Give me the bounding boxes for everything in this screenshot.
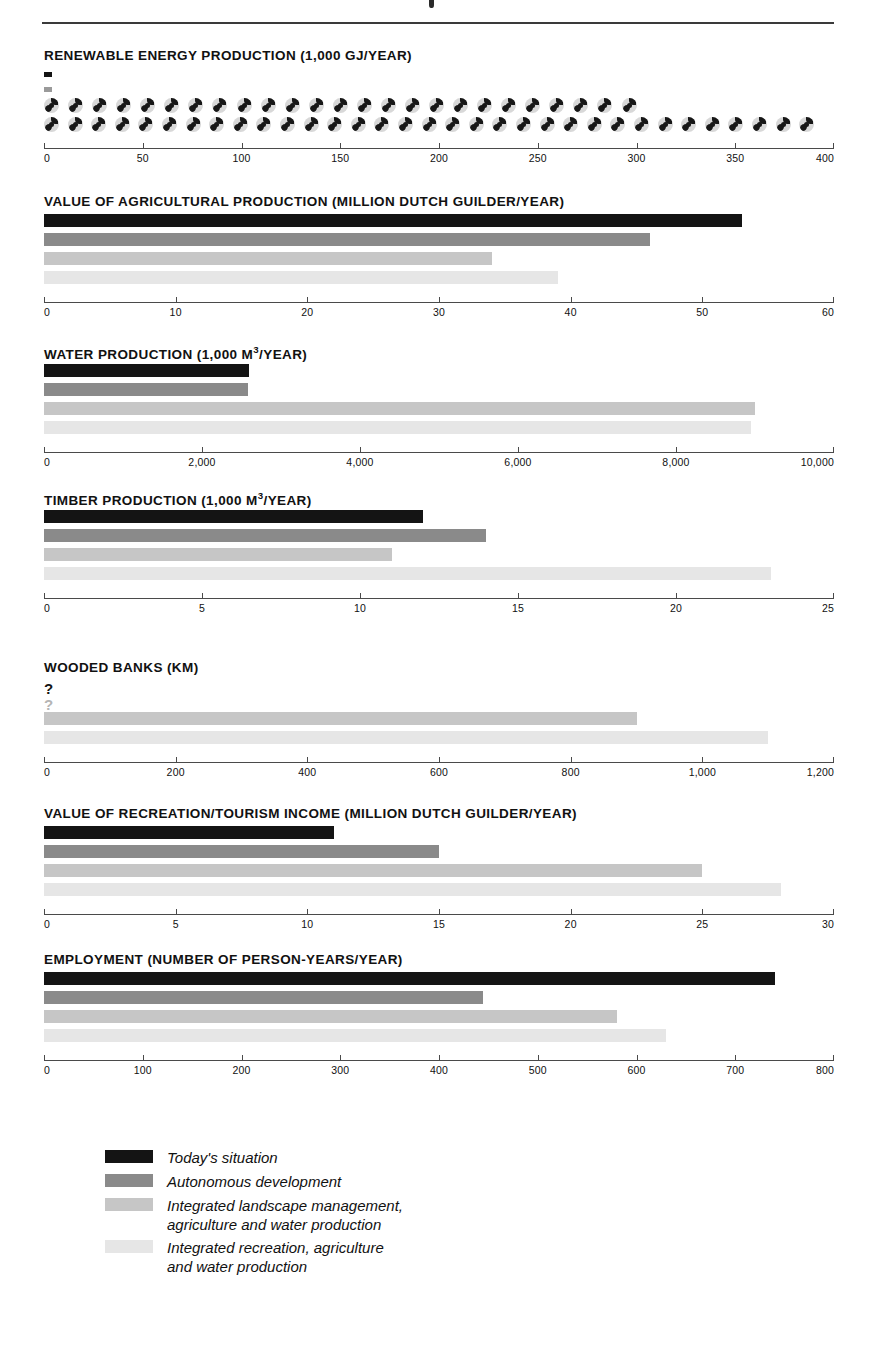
- x-axis-tick: [571, 297, 572, 303]
- legend-swatch: [105, 1198, 153, 1211]
- wind-turbine-icon: [162, 117, 177, 132]
- x-axis-tick: [340, 143, 341, 149]
- chart-title: WOODED BANKS (km): [44, 660, 199, 675]
- wind-turbine-icon: [398, 117, 413, 132]
- wind-turbine-icon: [327, 117, 342, 132]
- wind-turbine-icon: [261, 98, 276, 113]
- chart-title: VALUE OF AGRICULTURAL PRODUCTION (MILLIO…: [44, 194, 564, 209]
- legend-label: Integrated recreation, agriculture and w…: [167, 1238, 403, 1276]
- x-axis-tick-label: 20: [565, 918, 577, 930]
- wind-turbine-icon: [285, 98, 300, 113]
- wind-turbine-icon: [237, 98, 252, 113]
- bar-series-3: [44, 1029, 666, 1042]
- x-axis-tick: [571, 909, 572, 915]
- wind-turbine-icon: [705, 117, 720, 132]
- bar-series-0: [44, 826, 334, 839]
- x-axis-tick-label: 100: [134, 1064, 152, 1076]
- wind-turbine-icon: [563, 117, 578, 132]
- wind-turbine-icon: [429, 98, 444, 113]
- x-axis-tick: [242, 143, 243, 149]
- x-axis-tick: [44, 1055, 45, 1061]
- wind-turbine-icon: [634, 117, 649, 132]
- wind-turbine-icon: [92, 98, 107, 113]
- x-axis-tick: [833, 297, 834, 303]
- x-axis-tick-label: 150: [331, 152, 349, 164]
- x-axis-tick-label: 10,000: [801, 456, 834, 468]
- bar-series-1: [44, 845, 439, 858]
- wind-turbine-icon: [138, 117, 153, 132]
- x-axis-tick: [44, 297, 45, 303]
- x-axis-tick: [538, 1055, 539, 1061]
- wind-turbine-icon: [492, 117, 507, 132]
- bar-series-0: [44, 214, 742, 227]
- wind-turbine-icon: [68, 117, 83, 132]
- x-axis-tick: [833, 909, 834, 915]
- wind-turbine-icon: [622, 98, 637, 113]
- x-axis-tick: [44, 757, 45, 763]
- x-axis-tick: [702, 757, 703, 763]
- x-axis-tick-label: 350: [726, 152, 744, 164]
- x-axis-tick-label: 300: [331, 1064, 349, 1076]
- wind-turbine-icon: [44, 117, 59, 132]
- x-axis-tick-label: 60: [822, 306, 834, 318]
- bar-series-2: [44, 712, 637, 725]
- x-axis-tick-label: 800: [816, 1064, 834, 1076]
- x-axis-tick: [202, 593, 203, 599]
- bar-series-0: [44, 510, 423, 523]
- wind-turbine-icon: [44, 98, 59, 113]
- x-axis-tick-label: 8,000: [662, 456, 689, 468]
- wind-turbine-icon: [658, 117, 673, 132]
- wind-turbine-icon: [540, 117, 555, 132]
- x-axis-tick: [360, 593, 361, 599]
- x-axis-tick-label: 1,200: [807, 766, 834, 778]
- x-axis-tick: [307, 757, 308, 763]
- figure-page: RENEWABLE ENERGY PRODUCTION (1,000 GJ/YE…: [0, 0, 875, 1348]
- x-axis-tick-label: 200: [430, 152, 448, 164]
- wind-turbine-icon: [525, 98, 540, 113]
- x-axis-tick-label: 600: [627, 1064, 645, 1076]
- chart-title: VALUE OF RECREATION/TOURISM INCOME (MILL…: [44, 806, 577, 821]
- x-axis-tick: [242, 1055, 243, 1061]
- legend-label: Integrated landscape management, agricul…: [167, 1196, 403, 1234]
- chart-title: WATER PRODUCTION (1,000 m3/YEAR): [44, 344, 307, 362]
- chart-title: TIMBER PRODUCTION (1,000 m3/YEAR): [44, 490, 312, 508]
- x-axis-tick-label: 5: [199, 602, 205, 614]
- bar-series-1: [44, 87, 52, 92]
- x-axis-tick: [44, 909, 45, 915]
- bar-series-1: [44, 383, 248, 396]
- x-axis-tick-label: 1,000: [689, 766, 716, 778]
- bar-series-3: [44, 883, 781, 896]
- x-axis-tick: [833, 143, 834, 149]
- wind-turbine-icon: [188, 98, 203, 113]
- chart-title: RENEWABLE ENERGY PRODUCTION (1,000 GJ/YE…: [44, 48, 412, 63]
- bar-series-2: [44, 252, 492, 265]
- legend-item: Autonomous development: [105, 1172, 403, 1192]
- x-axis-tick-label: 10: [301, 918, 313, 930]
- unknown-value-marker-1: ?: [44, 697, 53, 712]
- x-axis-tick-label: 250: [529, 152, 547, 164]
- wind-turbine-icon: [256, 117, 271, 132]
- wind-turbine-icon: [209, 117, 224, 132]
- wind-turbine-icon: [799, 117, 814, 132]
- wind-turbine-icon: [115, 117, 130, 132]
- legend-label: Today's situation: [167, 1148, 403, 1167]
- x-axis-tick-label: 0: [44, 456, 50, 468]
- x-axis-tick: [702, 297, 703, 303]
- wind-turbine-icon: [351, 117, 366, 132]
- wind-turbine-icon: [68, 98, 83, 113]
- x-axis-tick-label: 30: [433, 306, 445, 318]
- wind-turbine-icon: [681, 117, 696, 132]
- wind-turbine-icon: [453, 98, 468, 113]
- header-rule: [42, 22, 834, 24]
- wind-turbine-icon: [587, 117, 602, 132]
- x-axis-tick: [439, 143, 440, 149]
- wind-turbine-icon: [381, 98, 396, 113]
- x-axis-tick: [44, 593, 45, 599]
- x-axis-tick: [307, 909, 308, 915]
- x-axis-tick-label: 50: [696, 306, 708, 318]
- x-axis-tick-label: 20: [670, 602, 682, 614]
- x-axis-tick-label: 0: [44, 152, 50, 164]
- x-axis-tick: [202, 447, 203, 453]
- x-axis-tick-label: 50: [137, 152, 149, 164]
- wind-turbine-icon: [501, 98, 516, 113]
